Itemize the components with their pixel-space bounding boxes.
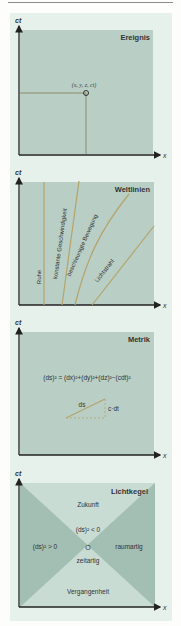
cdt-label: c·dt (108, 405, 119, 412)
panel-area (20, 332, 154, 455)
ds-label: ds (79, 401, 87, 408)
origin-label: O (85, 544, 91, 551)
panel-title: Lichtkegel (111, 487, 148, 496)
ct-axis-label: ct (15, 17, 22, 24)
past-label: Vergangenheit (67, 588, 109, 596)
x-axis-label: x (162, 452, 167, 459)
spacelike-label: raumartig (115, 543, 143, 551)
metric-formula: (ds)² = (dx)²+(dy)²+(dz)²−(cdt)² (43, 374, 131, 382)
spacelike-condition: (ds)² > 0 (33, 543, 58, 551)
panel-weltlinien: ct x Weltlinien Ruhe konstante Geschwind… (15, 169, 167, 309)
panel-title: Metrik (128, 335, 151, 344)
ct-axis-label: ct (15, 319, 22, 326)
worldline-label: Ruhe (36, 269, 42, 284)
panel-title: Weltlinien (115, 185, 151, 194)
x-axis-label: x (162, 604, 167, 611)
panel-metrik: ct x Metrik (ds)² = (dx)²+(dy)²+(dz)²−(c… (15, 319, 167, 459)
timelike-label: zeitartig (77, 557, 100, 565)
panel-area (20, 182, 154, 305)
future-label: Zukunft (77, 501, 99, 508)
timelike-condition: (ds)² < 0 (76, 526, 101, 534)
panel-ereignis: ct x Ereignis (x, y, z, ct) (15, 17, 167, 159)
x-axis-label: x (162, 152, 167, 159)
panel-title: Ereignis (120, 33, 150, 42)
ct-axis-label: ct (15, 169, 22, 176)
ct-axis-label: ct (15, 470, 22, 477)
event-label: (x, y, z, ct) (72, 82, 97, 89)
x-axis-label: x (162, 302, 167, 309)
spacetime-figure: ct x Ereignis (x, y, z, ct) ct x Weltlin… (0, 0, 181, 626)
panel-lichtkegel: ct x Lichtkegel Zukunft (ds)² < 0 (ds)² … (15, 470, 167, 611)
